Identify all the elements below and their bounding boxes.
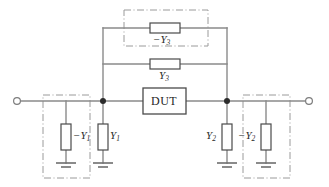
neg-y1-label-sub: 1: [87, 134, 91, 143]
resistor-y1: [98, 124, 108, 150]
neg-y3-label: −Y3: [153, 34, 170, 45]
dut-label: DUT: [151, 94, 177, 109]
port-1-terminal[interactable]: [14, 98, 21, 105]
port-2-terminal[interactable]: [306, 98, 313, 105]
neg-y2-label-text: −Y: [238, 129, 252, 141]
circuit-diagram-root: DUT −Y3 Y3 −Y1 Y1 Y2 −Y2: [0, 0, 329, 187]
neg-y1-label: −Y1: [73, 130, 90, 141]
neg-y3-label-text: −Y: [153, 33, 167, 45]
y2-label-sub: 2: [212, 134, 216, 143]
y3-label: Y3: [159, 70, 169, 81]
neg-y2-label: −Y2: [238, 130, 255, 141]
ground-symbol-neg-y1: [56, 163, 76, 167]
ground-symbol-y1: [93, 163, 113, 167]
resistor-neg-y2: [261, 124, 271, 150]
resistor-y3: [150, 59, 180, 69]
ground-symbol-neg-y2: [256, 163, 276, 167]
junction-right: [224, 98, 230, 104]
y2-label: Y2: [206, 130, 216, 141]
ground-symbol-y2: [217, 163, 237, 167]
resistor-y2: [222, 124, 232, 150]
junction-left: [100, 98, 106, 104]
resistor-neg-y3: [150, 23, 180, 33]
y3-label-sub: 3: [165, 74, 169, 83]
y1-label: Y1: [110, 130, 120, 141]
neg-y3-label-sub: 3: [167, 38, 171, 47]
resistor-neg-y1: [61, 124, 71, 150]
y1-label-sub: 1: [116, 134, 120, 143]
neg-y2-label-sub: 2: [252, 134, 256, 143]
neg-y1-label-text: −Y: [73, 129, 87, 141]
